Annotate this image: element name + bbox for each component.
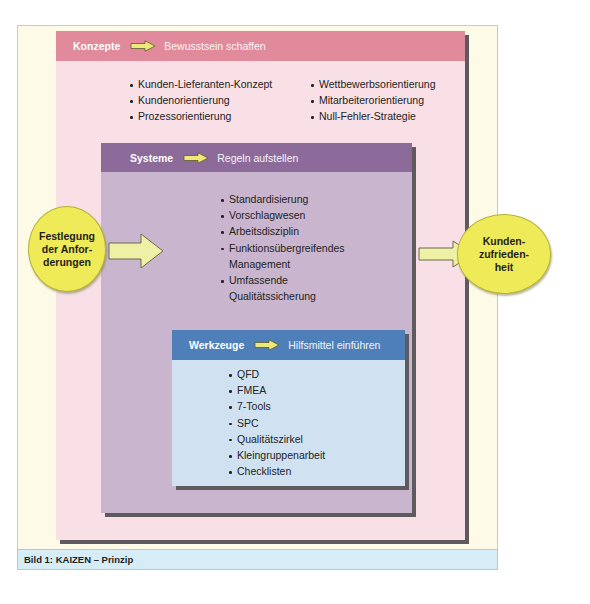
systeme-header: Systeme Regeln aufstellen	[101, 143, 412, 172]
right-arrow-icon	[254, 339, 280, 351]
list-item: Wettbewerbsorientierung	[311, 76, 436, 92]
list-item: FMEA	[229, 382, 325, 398]
werkzeuge-title: Werkzeuge	[189, 339, 244, 351]
input-line-1: Festlegung	[39, 230, 95, 243]
output-line-2: zufrieden-	[479, 248, 529, 261]
input-line-2: der Anfor-	[39, 243, 95, 256]
input-line-3: derungen	[39, 256, 95, 269]
right-arrow-icon	[183, 152, 209, 164]
systeme-subtitle: Regeln aufstellen	[217, 152, 298, 164]
werkzeuge-box: Werkzeuge Hilfsmittel einführen QFD FMEA…	[172, 330, 405, 486]
list-item: QFD	[229, 366, 325, 382]
right-arrow-icon	[130, 40, 156, 52]
list-item: Kunden-Lieferanten-Konzept	[130, 76, 272, 92]
konzepte-title: Konzepte	[73, 40, 120, 52]
list-item: Null-Fehler-Strategie	[311, 108, 436, 124]
list-item: Mitarbeiterorientierung	[311, 92, 436, 108]
list-item: Umfassende	[221, 272, 345, 288]
list-item: SPC	[229, 415, 325, 431]
output-ellipse: Kunden- zufrieden- heit	[457, 214, 551, 294]
konzepte-subtitle: Bewusstsein schaffen	[164, 40, 265, 52]
output-line-3: heit	[479, 261, 529, 274]
list-item: Kleingruppenarbeit	[229, 447, 325, 463]
list-item: 7-Tools	[229, 398, 325, 414]
input-ellipse: Festlegung der Anfor- derungen	[28, 206, 106, 292]
list-item: Qualitätszirkel	[229, 431, 325, 447]
konzepte-list-right: Wettbewerbsorientierung Mitarbeiterorien…	[311, 76, 436, 125]
systeme-list: Standardisierung Vorschlagwesen Arbeitsd…	[221, 191, 345, 304]
werkzeuge-list: QFD FMEA 7-Tools SPC Qualitätszirkel Kle…	[229, 366, 325, 479]
list-item: Prozessorientierung	[130, 108, 272, 124]
list-item: Vorschlagwesen	[221, 207, 345, 223]
konzepte-header: Konzepte Bewusstsein schaffen	[56, 31, 465, 61]
list-item: Kundenorientierung	[130, 92, 272, 108]
list-item-continuation: Qualitätssicherung	[221, 288, 345, 304]
list-item: Standardisierung	[221, 191, 345, 207]
list-item: Arbeitsdisziplin	[221, 223, 345, 239]
figure-caption: Bild 1: KAIZEN – Prinzip	[17, 549, 498, 570]
output-line-1: Kunden-	[479, 235, 529, 248]
list-item: Checklisten	[229, 463, 325, 479]
list-item: Funktionsübergreifendes	[221, 240, 345, 256]
systeme-title: Systeme	[130, 152, 173, 164]
input-arrow-icon	[108, 233, 164, 269]
werkzeuge-subtitle: Hilfsmittel einführen	[288, 339, 380, 351]
werkzeuge-header: Werkzeuge Hilfsmittel einführen	[172, 330, 405, 360]
konzepte-list-left: Kunden-Lieferanten-Konzept Kundenorienti…	[130, 76, 272, 125]
list-item-continuation: Management	[221, 256, 345, 272]
